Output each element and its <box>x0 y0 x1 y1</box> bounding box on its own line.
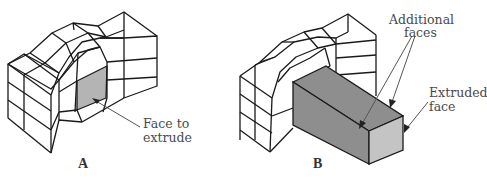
annotation-face-to-extrude-line1: Face to <box>143 116 189 131</box>
annotation-extruded-face-line1: Extruded <box>429 85 487 100</box>
arrowhead-icon <box>389 99 396 108</box>
mesh-block-a <box>8 12 157 153</box>
extrusion-diagram: Face to extrude A <box>0 0 487 181</box>
annotation-extruded-face-line2: face <box>429 99 455 114</box>
panel-label-b: B <box>313 156 322 171</box>
leader-arrow-extruded-face <box>407 102 428 128</box>
leader-arrow-face-to-extrude <box>96 101 140 127</box>
annotation-additional-faces-line2: faces <box>404 25 437 40</box>
panel-a: Face to extrude A <box>8 12 192 171</box>
annotation-face-to-extrude-line2: extrude <box>143 130 192 145</box>
panel-label-a: A <box>78 156 89 171</box>
panel-b: Additional faces Extruded face B <box>240 12 487 171</box>
leader-arrow-additional-face-2 <box>392 36 415 102</box>
